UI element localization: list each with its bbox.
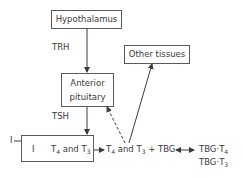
anterior-pituitary-line1: Anterior xyxy=(62,76,113,90)
negative-feedback-arrow xyxy=(107,107,125,143)
tbg-t3-label: TBG·T3 xyxy=(199,157,228,168)
hypothalamus-box: Hypothalamus xyxy=(51,10,122,29)
other-tissues-box: Other tissues xyxy=(124,45,190,64)
anterior-pituitary-box: Anterior pituitary xyxy=(61,73,114,107)
thyroid-hormones-label: T4 and T3 xyxy=(51,144,90,155)
iodide-inside-label: I xyxy=(32,144,35,154)
iodide-outside-label: I xyxy=(10,135,13,145)
anterior-pituitary-line2: pituitary xyxy=(62,90,113,104)
other-tissues-arrow xyxy=(129,64,152,143)
other-tissues-label: Other tissues xyxy=(129,49,185,59)
tsh-label: TSH xyxy=(52,111,69,121)
tbg-t4-label: TBG·T4 xyxy=(199,144,228,155)
hypothalamus-label: Hypothalamus xyxy=(56,14,118,24)
trh-label: TRH xyxy=(52,42,70,52)
free-hormones-plus-tbg-label: T4 and T3 + TBG xyxy=(106,144,175,155)
